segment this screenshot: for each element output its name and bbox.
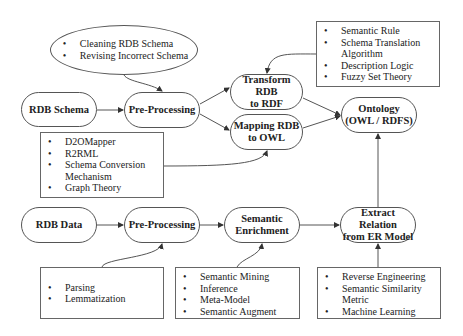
node-label-line2: to RDF [250, 98, 283, 110]
enrichment-methods-box: Semantic Mining Inference Meta-Model Sem… [175, 267, 300, 319]
box-item: Meta-Model [180, 294, 295, 306]
node-mapping-rdb-to-owl: Mapping RDB to OWL [230, 114, 303, 150]
node-label-line2: (OWL / RDFS) [345, 115, 413, 127]
node-label-line2: from ER Model [343, 231, 413, 243]
box-item: Graph Theory [45, 182, 159, 194]
box-item: Reverse Engineering [322, 271, 436, 283]
node-label-line1: Transform RDB [231, 74, 302, 98]
box-item: Schema Translation Algorithm [321, 37, 435, 60]
mapping-methods-box: D2OMapper R2RML Schema Conversion Mechan… [40, 132, 164, 198]
node-transform-rdb-to-rdf: Transform RDB to RDF [230, 74, 303, 110]
node-label-line1: Semantic [241, 213, 282, 225]
node-label: Pre-Processing [129, 104, 196, 116]
box-item: Description Logic [321, 60, 435, 72]
node-pre-processing-data: Pre-Processing [124, 207, 200, 243]
schema-preprocessing-ellipse: Cleaning RDB Schema Revising Incorrect S… [50, 25, 198, 75]
box-item: Machine Learning [322, 306, 436, 318]
node-label: Pre-Processing [129, 219, 196, 231]
transform-methods-box: Semantic Rule Schema Translation Algorit… [316, 21, 440, 87]
box-item: Lemmatization [45, 293, 126, 305]
node-label-line1: Ontology [358, 103, 399, 115]
ellipse-item: Revising Incorrect Schema [60, 50, 188, 62]
node-label-line2: to OWL [248, 132, 285, 144]
node-rdb-data: RDB Data [21, 207, 97, 243]
node-label-line2: Enrichment [235, 225, 289, 237]
box-item: Semantic Augment [180, 306, 295, 318]
box-item: Semantic Mining [180, 271, 295, 283]
node-label-line1: Extract Relation [341, 207, 415, 231]
box-item: Parsing [45, 282, 126, 294]
node-label: RDB Schema [29, 104, 89, 116]
node-label-line1: Mapping RDB [234, 120, 300, 132]
node-semantic-enrichment: Semantic Enrichment [224, 207, 300, 243]
box-item: Semantic Similarity Metric [322, 283, 436, 306]
ellipse-item: Cleaning RDB Schema [60, 38, 188, 50]
box-item: Semantic Rule [321, 25, 435, 37]
node-pre-processing-schema: Pre-Processing [124, 92, 200, 128]
extraction-methods-box: Reverse Engineering Semantic Similarity … [317, 267, 441, 319]
node-label: RDB Data [36, 219, 82, 231]
box-item: Fuzzy Set Theory [321, 71, 435, 83]
box-item: Inference [180, 283, 295, 295]
data-preprocessing-box: Parsing Lemmatization [40, 267, 164, 319]
box-item: D2OMapper [45, 136, 159, 148]
node-ontology: Ontology (OWL / RDFS) [341, 97, 417, 133]
node-extract-relation: Extract Relation from ER Model [340, 207, 416, 243]
box-item: Schema Conversion Mechanism [45, 159, 159, 182]
node-rdb-schema: RDB Schema [21, 92, 97, 127]
box-item: R2RML [45, 148, 159, 160]
